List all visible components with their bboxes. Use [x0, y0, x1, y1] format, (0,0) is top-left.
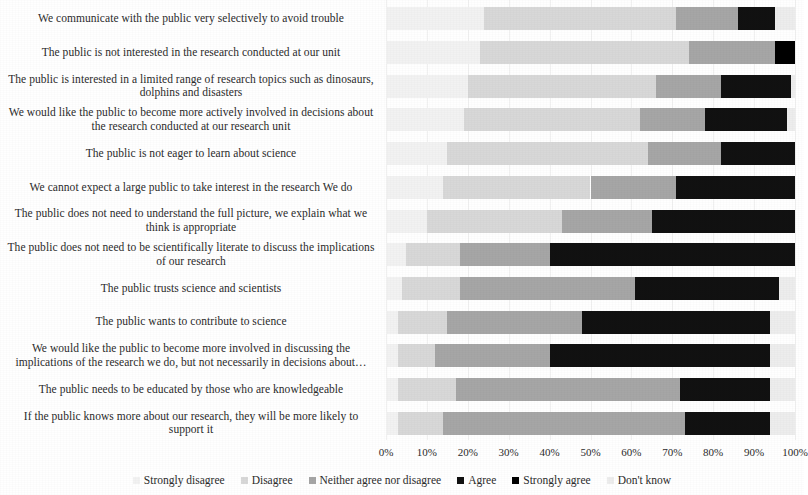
bar-row — [386, 7, 795, 30]
bar-segment — [484, 7, 676, 30]
category-label-text: The public wants to contribute to scienc… — [4, 315, 378, 329]
bar-segment — [550, 344, 771, 367]
bar-segment — [770, 344, 795, 367]
bar-segment — [386, 176, 443, 199]
bar-segment — [386, 210, 427, 233]
legend-item-label: Agree — [468, 474, 496, 486]
x-axis-tick-label: 80% — [703, 446, 723, 458]
bar-segment — [386, 243, 406, 266]
legend-swatch-icon — [309, 477, 316, 484]
legend-swatch-icon — [133, 477, 140, 484]
x-axis-tick-label: 50% — [580, 446, 600, 458]
stacked-bar — [386, 277, 795, 300]
bar-segment — [398, 412, 443, 435]
bar-row — [386, 210, 795, 233]
category-label: If the public knows more about our resea… — [4, 406, 378, 440]
bar-segment — [464, 108, 640, 131]
legend-swatch-icon — [607, 477, 614, 484]
legend-item-label: Strongly agree — [523, 474, 590, 486]
bar-row — [386, 378, 795, 401]
bar-segment — [406, 243, 459, 266]
bar-row — [386, 412, 795, 435]
bar-segment — [779, 277, 795, 300]
bar-segment — [386, 378, 398, 401]
category-label: We would like the public to become more … — [4, 103, 378, 137]
x-axis-tick-label: 40% — [540, 446, 560, 458]
bar-segment — [775, 7, 795, 30]
legend-item-label: Strongly disagree — [144, 474, 225, 486]
stacked-bar — [386, 7, 795, 30]
category-label-text: If the public knows more about our resea… — [4, 410, 378, 437]
category-label: The public wants to contribute to scienc… — [4, 305, 378, 339]
bar-segment — [427, 210, 562, 233]
chart-legend: Strongly disagreeDisagreeNeither agree n… — [0, 470, 804, 490]
bar-segment — [775, 41, 795, 64]
x-axis-tick-label: 100% — [782, 446, 808, 458]
stacked-bar — [386, 176, 795, 199]
bar-segment — [386, 344, 398, 367]
bar-segment — [582, 311, 770, 334]
bar-segment — [680, 378, 770, 401]
category-label: The public is not interested in the rese… — [4, 36, 378, 70]
bar-segment — [460, 277, 636, 300]
bar-segment — [640, 108, 705, 131]
category-label: The public trusts science and scientists — [4, 272, 378, 306]
bar-row — [386, 108, 795, 131]
bar-segment — [770, 412, 795, 435]
stacked-bar — [386, 243, 795, 266]
bar-segment — [386, 277, 402, 300]
bar-row — [386, 142, 795, 165]
bar-segment — [398, 311, 447, 334]
legend-item[interactable]: Don't know — [607, 474, 672, 486]
bar-segment — [460, 243, 550, 266]
category-label-text: The public is not eager to learn about s… — [4, 147, 378, 161]
bar-segment — [685, 412, 771, 435]
category-label: We communicate with the public very sele… — [4, 2, 378, 36]
x-axis-tick-label: 10% — [417, 446, 437, 458]
legend-swatch-icon — [512, 477, 519, 484]
category-label-text: We cannot expect a large public to take … — [4, 181, 378, 195]
legend-item[interactable]: Disagree — [241, 474, 293, 486]
bar-segment — [468, 75, 656, 98]
bar-row — [386, 243, 795, 266]
legend-swatch-icon — [241, 477, 248, 484]
bar-segment — [770, 311, 795, 334]
x-axis-tick-label: 30% — [499, 446, 519, 458]
stacked-bar — [386, 41, 795, 64]
stacked-bar — [386, 108, 795, 131]
legend-item-label: Neither agree nor disagree — [320, 474, 442, 486]
bar-segment — [386, 311, 398, 334]
plot-area — [386, 0, 795, 440]
category-label-text: The public is not interested in the rese… — [4, 46, 378, 60]
legend-item[interactable]: Strongly agree — [512, 474, 590, 486]
bar-row — [386, 75, 795, 98]
stacked-bar — [386, 311, 795, 334]
bar-segment — [386, 41, 480, 64]
bar-segment — [635, 277, 778, 300]
bar-segment — [562, 210, 652, 233]
bar-segment — [386, 108, 464, 131]
stacked-bar — [386, 210, 795, 233]
legend-item-label: Disagree — [252, 474, 293, 486]
legend-item[interactable]: Strongly disagree — [133, 474, 225, 486]
stacked-bar — [386, 344, 795, 367]
category-label: The public is not eager to learn about s… — [4, 137, 378, 171]
category-label: The public needs to be educated by those… — [4, 373, 378, 407]
legend-item[interactable]: Neither agree nor disagree — [309, 474, 442, 486]
x-axis: 0%10%20%30%40%50%60%70%80%90%100% — [386, 446, 795, 462]
bar-segment — [386, 412, 398, 435]
category-label: We would like the public to become more … — [4, 339, 378, 373]
bar-segment — [456, 378, 681, 401]
category-label-text: The public is interested in a limited ra… — [4, 73, 378, 100]
category-label-text: We would like the public to become more … — [4, 106, 378, 133]
bar-segment — [791, 75, 795, 98]
category-label: The public is interested in a limited ra… — [4, 69, 378, 103]
legend-item[interactable]: Agree — [457, 474, 496, 486]
bar-row — [386, 41, 795, 64]
bar-segment — [770, 378, 795, 401]
category-label-text: The public trusts science and scientists — [4, 282, 378, 296]
bar-segment — [398, 378, 455, 401]
bar-segment — [386, 7, 484, 30]
bar-row — [386, 344, 795, 367]
